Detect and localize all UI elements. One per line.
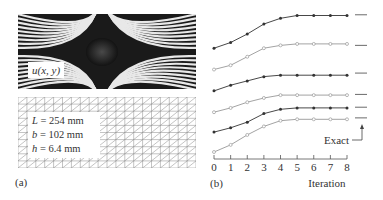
fringe-label: u(x, y)	[28, 62, 64, 78]
x-tick-label: 6	[311, 161, 317, 173]
series-4	[213, 94, 368, 114]
x-tick-label: 3	[261, 161, 267, 173]
x-tick-label: 8	[344, 161, 350, 173]
x-tick-label: 1	[228, 161, 234, 173]
series-3	[213, 73, 368, 92]
x-tick-label: 0	[211, 161, 217, 173]
x-tick-label: 7	[328, 161, 334, 173]
finite-element-mesh: L = 254 mm b = 102 mm h = 6.4 mm	[18, 97, 196, 168]
plate-parameters: L = 254 mm b = 102 mm h = 6.4 mm	[28, 112, 100, 158]
convergence-chart: 012345678 Iteration (b) Exact	[200, 0, 383, 200]
exact-arrowhead-icon	[360, 124, 364, 129]
param-width: b = 102 mm	[32, 128, 96, 142]
panel-b-caption: (b)	[210, 177, 223, 190]
panel-a-caption: (a)	[15, 176, 27, 188]
fringe-pattern-image: u(x, y)	[18, 14, 196, 89]
param-length: L = 254 mm	[32, 114, 96, 128]
x-tick-label: 2	[245, 161, 251, 173]
series-2	[213, 42, 368, 71]
param-thickness: h = 6.4 mm	[32, 142, 96, 156]
exact-label: Exact	[324, 134, 349, 146]
x-axis-label: Iteration	[308, 177, 346, 189]
x-tick-label: 4	[278, 161, 284, 173]
x-tick-label: 5	[294, 161, 300, 173]
